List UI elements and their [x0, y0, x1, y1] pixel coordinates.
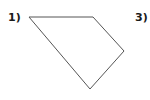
quadrilateral-figure	[0, 0, 150, 100]
quadrilateral-shape	[29, 17, 124, 89]
